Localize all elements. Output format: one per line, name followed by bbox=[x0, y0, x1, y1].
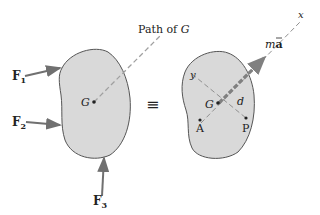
point-p-label: P bbox=[242, 122, 250, 135]
ma-vector-label: ma bbox=[265, 38, 283, 51]
force-f1-label: F1 bbox=[12, 69, 26, 85]
force-f1-arrow bbox=[25, 68, 60, 76]
force-f2-arrow bbox=[26, 122, 60, 125]
center-g-label-right: G bbox=[205, 98, 214, 111]
axis-x-label: x bbox=[298, 9, 304, 20]
center-g-label-left: G bbox=[81, 96, 90, 109]
rigid-body-diagram: F1 F2 F3 G Path of G ≡ x y G d A P ma bbox=[0, 0, 320, 215]
point-a-label: A bbox=[195, 122, 205, 135]
equivalence-symbol: ≡ bbox=[146, 95, 159, 114]
center-g-dot-left bbox=[92, 100, 96, 104]
point-p-dot bbox=[244, 116, 247, 119]
center-g-dot-right bbox=[216, 101, 220, 105]
path-of-g-label: Path of G bbox=[138, 23, 190, 36]
force-f3-arrow bbox=[102, 158, 104, 196]
force-f2-label: F2 bbox=[12, 115, 26, 131]
force-f3-label: F3 bbox=[93, 194, 108, 210]
distance-d-label: d bbox=[237, 95, 244, 108]
left-body bbox=[59, 49, 130, 158]
axis-y-label: y bbox=[189, 69, 196, 80]
